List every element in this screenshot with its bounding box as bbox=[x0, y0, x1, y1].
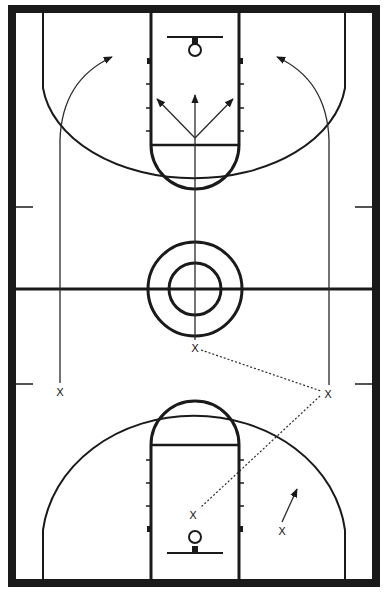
players: X X X X X bbox=[56, 342, 332, 538]
basketball-court-diagram: X X X X X bbox=[0, 0, 388, 597]
pass-line-top-to-right bbox=[201, 350, 321, 391]
option-arrow-right bbox=[195, 99, 233, 138]
player-marker: X bbox=[56, 386, 64, 399]
bottom-half-court bbox=[43, 401, 345, 579]
sideline-ticks bbox=[16, 207, 372, 384]
lane-hash-marks-bottom bbox=[146, 460, 244, 506]
player-marker: X bbox=[191, 342, 199, 355]
option-arrow-left bbox=[157, 99, 195, 138]
top-half-court bbox=[43, 13, 345, 189]
player-marker: X bbox=[189, 509, 197, 522]
hoop-top bbox=[189, 44, 201, 56]
cut-arrow-block bbox=[282, 489, 297, 522]
player-marker: X bbox=[278, 525, 286, 538]
free-throw-circle-bottom bbox=[151, 401, 239, 445]
three-point-line-bottom bbox=[43, 416, 345, 579]
court-boundary bbox=[12, 9, 376, 583]
cut-arrow-right-wing bbox=[277, 57, 329, 385]
player-marker: X bbox=[324, 388, 332, 401]
hoop-bottom bbox=[189, 531, 201, 543]
cut-arrow-left-wing bbox=[60, 57, 112, 383]
pass-line-right-to-post bbox=[200, 396, 320, 508]
